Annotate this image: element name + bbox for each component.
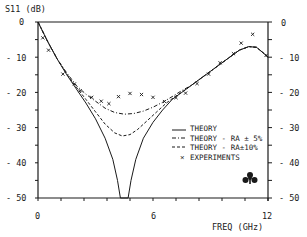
trefoil-logo-icon <box>243 172 258 184</box>
y-right-tick-30: - 30 <box>279 123 299 133</box>
series-group <box>38 22 268 198</box>
y-right-tick-0: 0 <box>281 18 286 28</box>
experiment-marker <box>240 42 243 45</box>
y-axis-label: S11 (dB) <box>5 4 46 14</box>
legend-marker-x: × <box>180 153 185 162</box>
experiment-marker <box>251 33 254 36</box>
legend-label-theory: THEORY <box>190 124 218 133</box>
experiment-marker <box>140 93 143 96</box>
y-left-tick-30: - 30 <box>6 123 26 133</box>
experiment-marker <box>47 49 50 52</box>
experiment-marker <box>107 102 110 105</box>
series-dashed <box>38 22 268 136</box>
x-tick-label-6: 6 <box>151 211 156 221</box>
experiment-marker <box>117 95 120 98</box>
y-right-tick-10: - 10 <box>279 53 299 63</box>
y-right-tick-20: - 20 <box>279 88 299 98</box>
x-tick-label-12: 12 <box>262 211 272 221</box>
experiment-marker <box>41 36 44 39</box>
s11-chart: S11 (dB) FREQ (GHz) 0 6 12 0 - 10 - 20 -… <box>0 0 307 237</box>
experiment-marker <box>195 82 198 85</box>
experiment-marker <box>264 54 267 57</box>
y-left-tick-10: - 10 <box>6 53 26 63</box>
experiment-marker <box>100 100 103 103</box>
series-solid <box>38 22 268 198</box>
experiment-marker <box>128 92 131 95</box>
y-left-tick-40: - 40 <box>6 158 26 168</box>
legend-label-ra10: THEORY - RA±10% <box>190 143 258 152</box>
experiment-marker <box>184 92 187 95</box>
series-dash-dot <box>38 22 268 114</box>
y-right-tick-40: - 40 <box>279 158 299 168</box>
legend-label-ra5: THEORY - RA ± 5% <box>190 134 263 143</box>
x-tick-label-0: 0 <box>35 211 40 221</box>
legend: × THEORY THEORY - RA ± 5% THEORY - RA±10… <box>172 124 263 162</box>
y-left-tick-20: - 20 <box>6 88 26 98</box>
legend-label-experiments: EXPERIMENTS <box>190 153 240 162</box>
experiment-marker <box>151 96 154 99</box>
y-left-tick-0: 0 <box>19 17 24 27</box>
x-axis-label: FREQ (GHz) <box>212 222 263 232</box>
y-right-tick-50: - 50 <box>279 193 299 203</box>
axes <box>35 22 272 201</box>
y-left-tick-50: - 50 <box>6 193 26 203</box>
experiment-marker <box>61 72 64 75</box>
